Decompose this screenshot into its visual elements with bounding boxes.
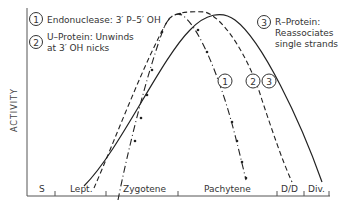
svg-text:single strands: single strands — [275, 39, 338, 49]
stage-label-lept: Lept. — [70, 184, 93, 194]
curve-1-endonuclease — [118, 14, 246, 200]
svg-text:at 3′ OH nicks: at 3′ OH nicks — [47, 43, 110, 53]
activity-diagram: S Lept. Zygotene Pachytene D/D Div. ACTI… — [0, 0, 347, 214]
svg-text:Endonuclease: 3′ P–5′ OH: Endonuclease: 3′ P–5′ OH — [47, 15, 161, 25]
stage-label-s: S — [39, 184, 45, 194]
svg-text:2: 2 — [250, 77, 256, 87]
legend-item-3: 3 R–Protein: Reassociates single strands — [258, 16, 339, 50]
svg-text:1: 1 — [33, 15, 39, 25]
y-axis-title: ACTIVITY — [10, 88, 19, 132]
stage-label-pachytene: Pachytene — [204, 184, 251, 194]
curve-label-1: 1 — [218, 74, 232, 88]
svg-text:3: 3 — [261, 18, 267, 28]
svg-text:2: 2 — [33, 38, 39, 48]
svg-text:3: 3 — [266, 77, 272, 87]
curve-label-2: 2 — [246, 74, 260, 88]
legend-item-2: 2 U–Protein: Unwinds at 3′ OH nicks — [30, 32, 135, 53]
stage-label-zygotene: Zygotene — [123, 184, 166, 194]
legend-item-1: 1 Endonuclease: 3′ P–5′ OH — [30, 13, 161, 26]
svg-text:Reassociates: Reassociates — [275, 28, 334, 38]
svg-text:1: 1 — [222, 77, 228, 87]
stage-label-dd: D/D — [281, 184, 298, 194]
svg-text:U–Protein: Unwinds: U–Protein: Unwinds — [47, 32, 134, 42]
curve-1-dots — [134, 13, 248, 180]
svg-text:R–Protein:: R–Protein: — [275, 17, 320, 27]
curve-label-3: 3 — [262, 74, 276, 88]
stage-label-div: Div. — [308, 184, 325, 194]
